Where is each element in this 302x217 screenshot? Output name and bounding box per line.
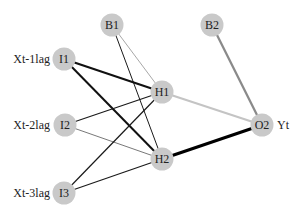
- node-i3: I3 Xt-3lag: [13, 182, 75, 205]
- input-variable-label: Xt-2lag: [13, 118, 50, 132]
- edge-i3-h2: [64, 159, 162, 193]
- node-h2: H2: [151, 148, 174, 171]
- edge-b1-h1: [112, 25, 162, 92]
- node-label: B1: [105, 18, 119, 32]
- output-variable-label: Yt: [277, 118, 290, 132]
- node-b2: B2: [201, 14, 224, 37]
- input-variable-label: Xt-1lag: [13, 52, 50, 66]
- input-variable-label: Xt-3lag: [13, 186, 50, 200]
- edge-h2-o2: [162, 125, 262, 159]
- node-label: I1: [59, 52, 69, 66]
- node-h1: H1: [151, 81, 174, 104]
- node-i1: I1 Xt-1lag: [13, 48, 75, 71]
- node-o2: O2 Yt: [251, 114, 290, 137]
- node-label: H2: [155, 152, 170, 166]
- node-i2: I2 Xt-2lag: [13, 114, 76, 137]
- node-label: I3: [59, 186, 69, 200]
- node-label: I2: [60, 118, 70, 132]
- node-label: O2: [255, 118, 270, 132]
- neural-network-diagram: B1 B2 I1 Xt-1lag I2 Xt-2lag I3 Xt-3lag H…: [0, 0, 302, 217]
- node-label: B2: [205, 18, 219, 32]
- node-b1: B1: [101, 14, 124, 37]
- edge-i1-h1: [64, 59, 162, 92]
- node-label: H1: [155, 85, 170, 99]
- edge-i3-h1: [64, 92, 162, 193]
